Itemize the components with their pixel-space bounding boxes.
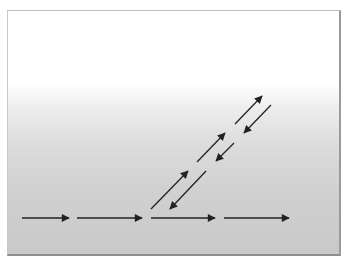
diagonal-down-arrow-1 — [170, 171, 206, 209]
diagonal-up-arrow-1 — [151, 171, 188, 209]
diagonal-up-arrow-2 — [197, 133, 225, 162]
diagonal-down-arrow-2 — [216, 143, 234, 161]
diagonal-up-arrows — [151, 96, 262, 209]
diagonal-up-arrow-3 — [235, 96, 262, 124]
diagonal-down-arrow-3 — [244, 105, 271, 133]
arrow-diagram — [0, 0, 347, 265]
diagonal-down-arrows — [170, 105, 271, 209]
